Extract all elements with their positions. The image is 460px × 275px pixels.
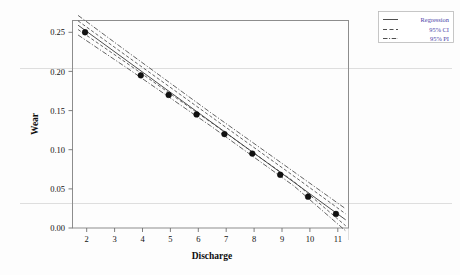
y-tick-label-1: 0.05 bbox=[50, 184, 65, 194]
data-point bbox=[166, 92, 172, 98]
x-tick-label-7: 9 bbox=[280, 234, 284, 244]
y-tick-label-0: 0.00 bbox=[50, 223, 65, 233]
legend[interactable]: Regression 95% CI 95% PI bbox=[379, 12, 454, 43]
y-tick-label-5: 0.25 bbox=[50, 27, 65, 37]
x-tick-label-0: 2 bbox=[85, 234, 89, 244]
y-tick-label-4: 0.20 bbox=[50, 67, 65, 77]
data-point bbox=[194, 112, 200, 118]
data-point bbox=[222, 131, 228, 137]
x-tick-label-9: 11 bbox=[334, 234, 342, 244]
data-point bbox=[249, 151, 255, 157]
x-tick-label-3: 5 bbox=[168, 234, 172, 244]
y-tick-label-3: 0.15 bbox=[50, 106, 65, 116]
data-point bbox=[138, 72, 144, 78]
y-tick-label-2: 0.10 bbox=[50, 145, 65, 155]
x-axis-title: Discharge bbox=[192, 251, 233, 261]
x-tick-label-4: 6 bbox=[196, 234, 200, 244]
legend-label-regression: Regression bbox=[421, 16, 450, 23]
data-point bbox=[82, 29, 88, 35]
legend-label-pi: 95% PI bbox=[430, 35, 449, 42]
data-point bbox=[333, 211, 339, 217]
x-tick-label-1: 3 bbox=[112, 234, 116, 244]
data-point bbox=[277, 172, 283, 178]
regression-scatter-chart: 0.00 0.05 0.10 0.15 0.20 0.25 Wear 2 3 4… bbox=[0, 0, 460, 275]
x-tick-label-8: 10 bbox=[306, 234, 315, 244]
legend-label-ci: 95% CI bbox=[429, 26, 449, 33]
x-tick-label-5: 7 bbox=[224, 234, 228, 244]
data-point bbox=[305, 194, 311, 200]
x-tick-label-6: 8 bbox=[252, 234, 256, 244]
y-axis-title: Wear bbox=[30, 112, 40, 135]
